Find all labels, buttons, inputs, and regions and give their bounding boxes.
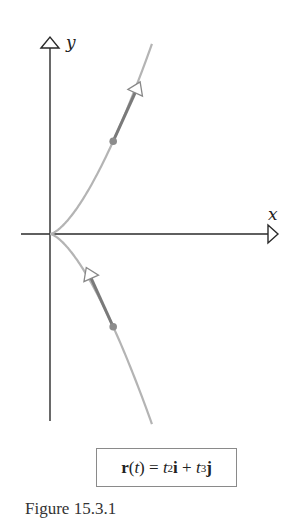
equation-term2-var: t [196,458,201,478]
equation-box: r(t) = t2i + t3j [96,448,237,487]
curve-point [109,137,117,145]
curve-figure: y x [0,0,308,520]
tangent-vector [113,91,136,141]
equation-plus: + [178,458,196,478]
y-axis-arrowhead-icon [41,37,59,48]
equation-term1-var: t [163,458,168,478]
x-axis-label: x [268,204,278,224]
figure-caption: Figure 15.3.1 [25,499,116,519]
y-axis-label: y [65,32,76,52]
equation-equals: = [145,458,163,478]
equation-unit-j: j [206,458,212,478]
equation-r: r [121,458,129,478]
x-axis-arrowhead-icon [268,225,278,243]
tangent-vectors [84,82,143,331]
tangent-vector [90,277,113,327]
curve-point [109,323,117,331]
